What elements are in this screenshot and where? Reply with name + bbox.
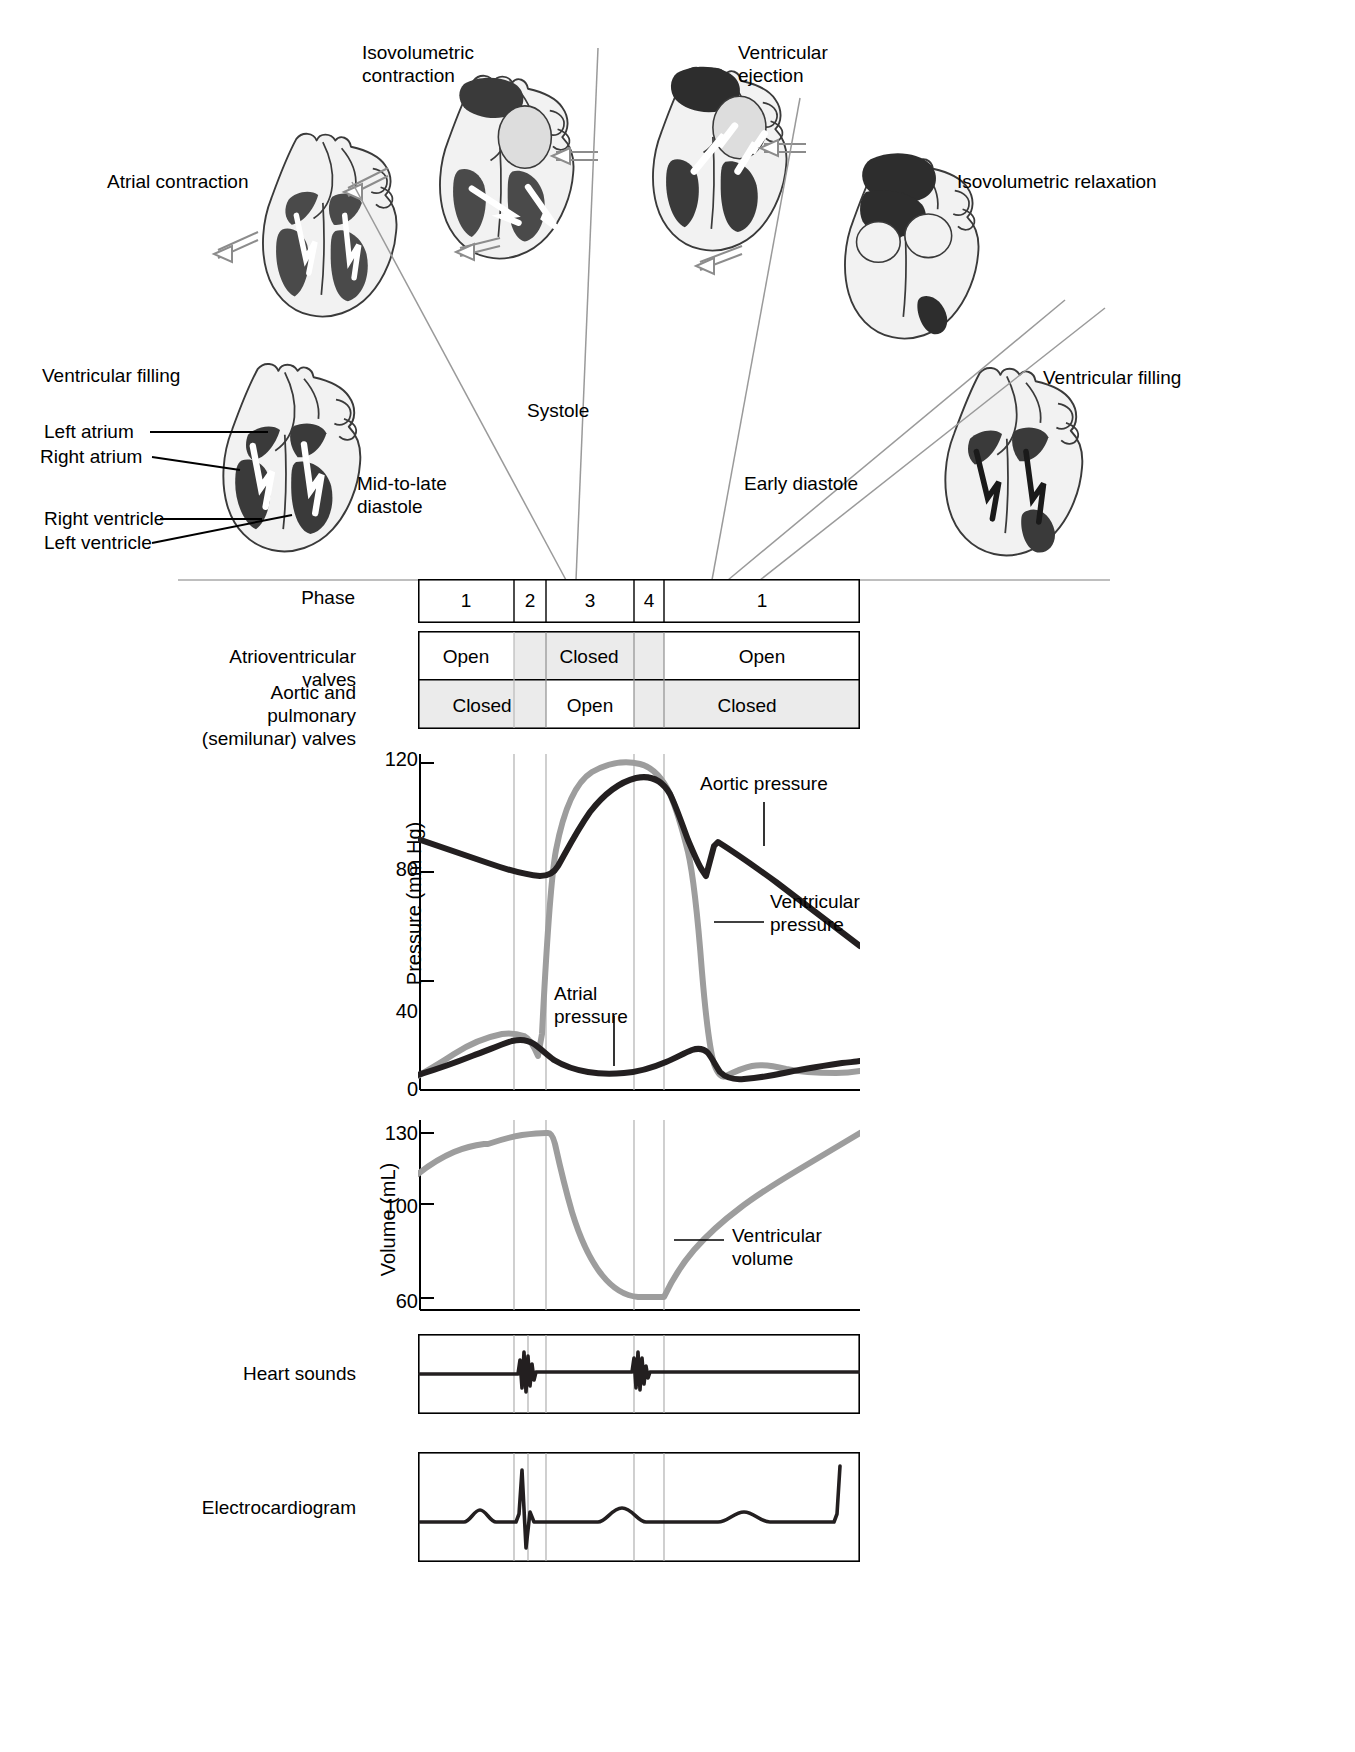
arrow-atrial-contraction [214, 232, 258, 262]
label-isovolumetric-relaxation: Isovolumetric relaxation [957, 170, 1157, 193]
label-left-ventricle: Left ventricle [44, 531, 152, 554]
heart-sounds-row-label: Heart sounds [180, 1362, 356, 1385]
label-early-diastole: Early diastole [744, 472, 858, 495]
volume-chart [418, 1112, 860, 1320]
label-systole: Systole [527, 399, 589, 422]
heart-ventricular-filling-left [223, 364, 360, 551]
pressure-ytick-80: 80 [368, 858, 418, 881]
semilunar-valves-row-label: Aortic and pulmonary (semilunar) valves [180, 681, 356, 750]
annotation-ventricular-pressure: Ventricular pressure [770, 890, 860, 936]
av-value-closed: Closed [514, 646, 664, 668]
volume-ytick-130: 130 [368, 1122, 418, 1145]
volume-y-axis-title: Volume (mL) [377, 1130, 400, 1310]
pressure-ytick-40: 40 [368, 1000, 418, 1023]
label-isovolumetric-contraction: Isovolumetric contraction [362, 41, 474, 87]
label-left-atrium: Left atrium [44, 420, 134, 443]
heart-atrial-contraction [263, 134, 397, 317]
phase-cell-3: 3 [546, 590, 634, 612]
annotation-atrial-pressure: Atrial pressure [554, 982, 628, 1028]
semilunar-value-open: Open [546, 695, 634, 717]
atrial-pressure-curve [418, 1040, 860, 1079]
ventricular-volume-curve [418, 1133, 860, 1297]
cardiac-cycle-figure: Isovolumetric contraction Ventricular ej… [0, 0, 1355, 1752]
annotation-ventricular-volume: Ventricular volume [732, 1224, 822, 1270]
label-right-atrium: Right atrium [40, 445, 142, 468]
phase-cell-2: 2 [514, 590, 546, 612]
phase-cell-4: 4 [634, 590, 664, 612]
phase-cell-1: 1 [418, 590, 514, 612]
heart-diagram-row [0, 0, 1355, 590]
pressure-ytick-0: 0 [368, 1078, 418, 1101]
ecg-panel [418, 1452, 860, 1562]
label-atrial-contraction: Atrial contraction [107, 170, 249, 193]
ecg-row-label: Electrocardiogram [160, 1496, 356, 1519]
av-value-open-2: Open [664, 646, 860, 668]
semilunar-value-closed-1: Closed [418, 695, 546, 717]
heart-sounds-panel [418, 1334, 860, 1414]
heart-isovolumetric-contraction [440, 76, 574, 259]
label-ventricular-filling-left: Ventricular filling [42, 364, 180, 387]
semilunar-value-closed-2: Closed [634, 695, 860, 717]
phase-row-label: Phase [210, 586, 355, 609]
annotation-aortic-pressure: Aortic pressure [700, 772, 828, 795]
pressure-ytick-120: 120 [368, 748, 418, 771]
av-value-open-1: Open [418, 646, 514, 668]
phase-cell-5: 1 [664, 590, 860, 612]
volume-ytick-100: 100 [368, 1195, 418, 1218]
label-ventricular-filling-right: Ventricular filling [1043, 366, 1181, 389]
heart-ventricular-ejection [653, 67, 787, 251]
label-ventricular-ejection: Ventricular ejection [738, 41, 828, 87]
volume-ytick-60: 60 [368, 1290, 418, 1313]
label-right-ventricle: Right ventricle [44, 507, 164, 530]
heart-ventricular-filling-right [945, 368, 1082, 555]
label-mid-to-late-diastole: Mid-to-late diastole [357, 472, 447, 518]
